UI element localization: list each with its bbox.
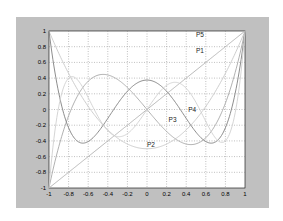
y-tick-label: 0.8 [38, 44, 47, 50]
y-tick-label: 0.2 [38, 91, 47, 97]
x-tick-label: 0.2 [162, 191, 171, 197]
label-p3: P3 [169, 116, 177, 123]
y-tick-label: -0.4 [36, 138, 47, 144]
x-tick-label: -0.8 [63, 191, 74, 197]
y-axis-ticks: 10.80.60.40.20-0.2-0.4-0.6-0.8-1 [36, 28, 47, 191]
y-tick-label: 1 [43, 28, 47, 34]
x-tick-label: 0 [145, 191, 149, 197]
x-axis-ticks: -1-0.8-0.6-0.4-0.200.20.40.60.81 [46, 191, 247, 197]
x-tick-label: -0.6 [83, 191, 94, 197]
y-tick-label: 0.4 [38, 75, 47, 81]
x-tick-label: 0.4 [182, 191, 191, 197]
x-tick-label: -0.4 [103, 191, 114, 197]
label-p4: P4 [188, 106, 196, 113]
y-tick-label: -0.2 [36, 122, 47, 128]
label-p2: P2 [147, 141, 155, 148]
x-tick-label: 1 [243, 191, 247, 197]
y-tick-label: 0 [43, 107, 47, 113]
x-tick-label: 0.6 [202, 191, 211, 197]
label-p1: P1 [196, 47, 204, 54]
y-tick-label: 0.6 [38, 59, 47, 65]
y-tick-label: -0.8 [36, 169, 47, 175]
legendre-polynomial-chart: -1-0.8-0.6-0.4-0.200.20.40.60.81 10.80.6… [0, 0, 283, 221]
y-tick-label: -0.6 [36, 154, 47, 160]
x-tick-label: -0.2 [122, 191, 133, 197]
y-tick-label: -1 [41, 185, 47, 191]
x-tick-label: 0.8 [221, 191, 230, 197]
label-p5: P5 [196, 31, 204, 38]
x-tick-label: -1 [46, 191, 52, 197]
